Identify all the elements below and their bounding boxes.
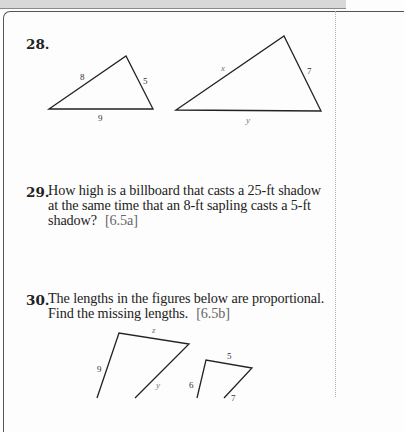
exercise-30-text: The lengths in the figures below are pro…	[48, 291, 338, 321]
exercise-29-line-3: shadow?[6.5a]	[48, 213, 338, 228]
exercise-29-line-3-text: shadow?	[48, 212, 97, 228]
triangle-2-side-y: y	[245, 115, 250, 125]
quad-1-side-y: y	[155, 380, 160, 390]
triangle-1-side-b: 5	[143, 76, 148, 86]
triangle-2-side-x: x	[220, 63, 225, 73]
exercise-30-line-1: The lengths in the figures below are pro…	[48, 291, 338, 306]
exercise-30-number: 30.	[26, 292, 50, 308]
exercise-30-reference: [6.5b]	[196, 305, 230, 321]
exercise-29-line-1: How high is a billboard that casts a 25-…	[48, 183, 338, 198]
exercise-29-text: How high is a billboard that casts a 25-…	[48, 183, 338, 228]
quad-1-side-9: 9	[97, 364, 102, 374]
triangle-2: x 7 y	[176, 36, 321, 125]
quad-2-side-7: 7	[231, 393, 236, 403]
triangle-2-side-b: 7	[307, 66, 312, 76]
exercise-30-line-2: Find the missing lengths.[6.5b]	[48, 306, 338, 321]
quadrilateral-2: 5 6 7	[189, 351, 252, 403]
quad-2-side-5: 5	[227, 351, 232, 361]
quad-2-side-6: 6	[189, 380, 194, 390]
exercise-30-line-2-text: Find the missing lengths.	[48, 305, 188, 321]
triangle-1-side-c: 9	[98, 113, 103, 123]
exercise-29-line-2: at the same time that an 8-ft sapling ca…	[48, 198, 338, 213]
quadrilateral-1: z 9 y	[97, 325, 189, 398]
quad-1-side-z: z	[151, 325, 156, 335]
exercise-29-reference: [6.5a]	[105, 212, 138, 228]
exercise-29-number: 29.	[26, 184, 50, 200]
triangle-1-side-a: 8	[80, 72, 85, 82]
triangle-1: 8 5 9	[49, 56, 153, 123]
